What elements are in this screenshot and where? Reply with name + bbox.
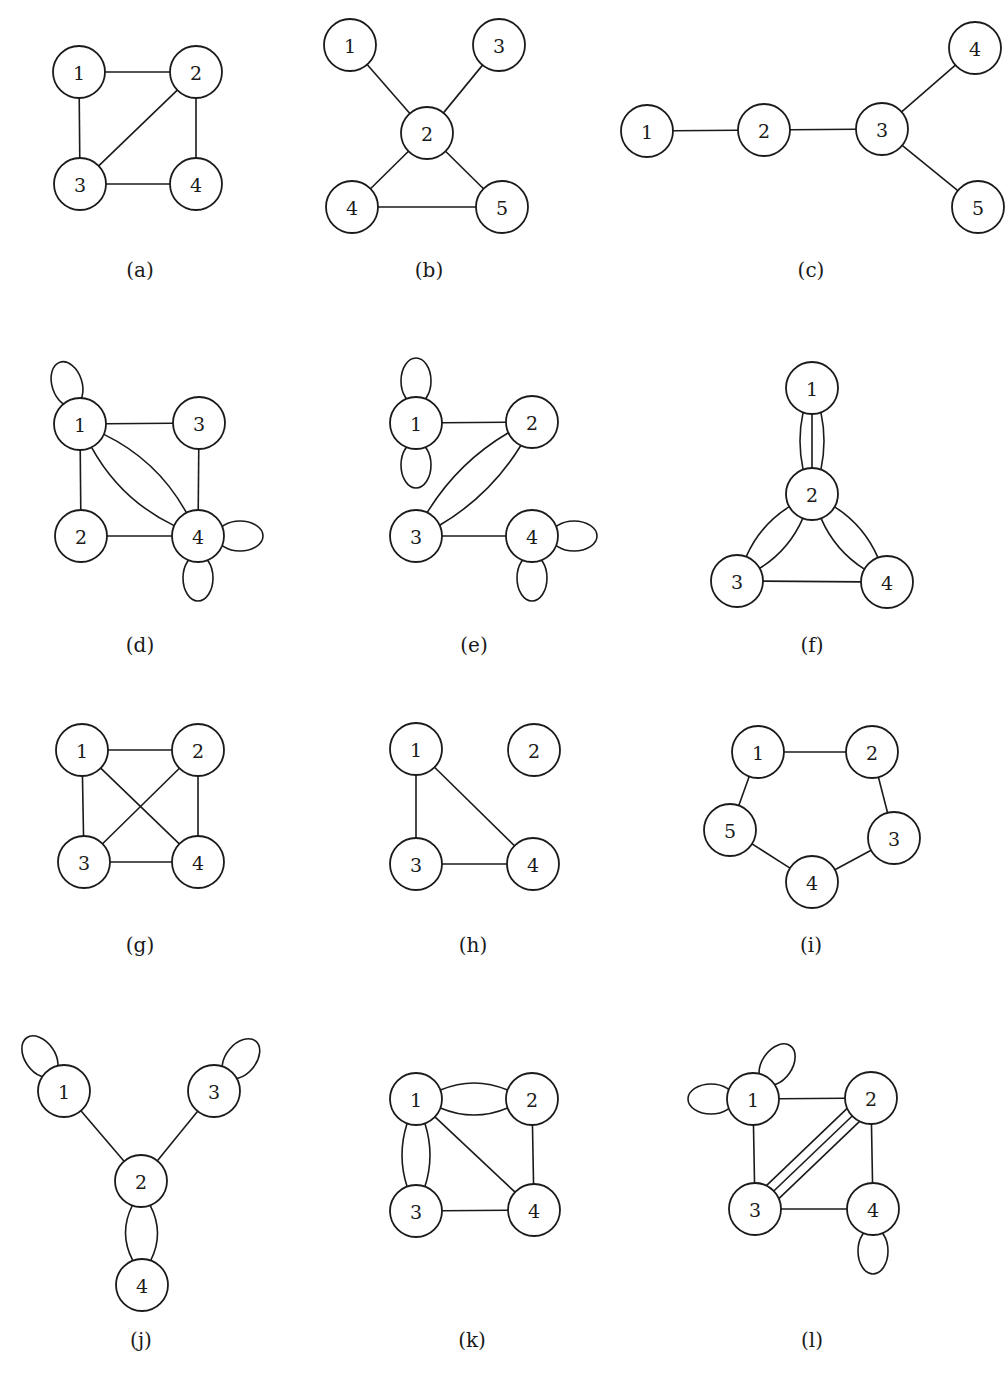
node-2: 2 xyxy=(506,1073,558,1125)
node-4: 4 xyxy=(949,22,1001,74)
node-3: 3 xyxy=(58,836,110,888)
graph-figure: 1234(a)12345(b)12345(c)1324(d)1234(e)123… xyxy=(0,0,1006,1388)
panel-caption: (f) xyxy=(800,633,823,657)
edge-1-3 xyxy=(753,1125,754,1183)
node-2: 2 xyxy=(738,104,790,156)
edge-1-2 xyxy=(80,450,81,510)
node-label: 4 xyxy=(881,572,893,594)
node-label: 1 xyxy=(74,414,86,436)
edge-1-2 xyxy=(442,422,506,423)
node-label: 3 xyxy=(410,854,422,876)
node-label: 3 xyxy=(74,174,86,196)
panel-caption: (b) xyxy=(415,258,443,282)
edge-1-3 xyxy=(82,776,83,836)
node-2: 2 xyxy=(845,1072,897,1124)
node-1: 1 xyxy=(38,1065,90,1117)
node-4: 4 xyxy=(508,1184,560,1236)
edge-1-3 xyxy=(79,98,80,158)
edge-3-4 xyxy=(442,1210,508,1211)
node-label: 3 xyxy=(208,1081,220,1103)
node-label: 2 xyxy=(758,120,770,142)
node-label: 3 xyxy=(749,1199,761,1221)
node-label: 3 xyxy=(731,571,743,593)
node-1: 1 xyxy=(732,726,784,778)
edge-2-3 xyxy=(790,129,856,130)
node-4: 4 xyxy=(170,158,222,210)
node-4: 4 xyxy=(507,838,559,890)
node-3: 3 xyxy=(729,1183,781,1235)
node-label: 3 xyxy=(888,828,900,850)
node-label: 1 xyxy=(410,739,422,761)
node-4: 4 xyxy=(506,510,558,562)
node-label: 1 xyxy=(73,62,85,84)
node-label: 4 xyxy=(526,526,538,548)
node-label: 5 xyxy=(724,820,736,842)
node-1: 1 xyxy=(786,362,838,414)
node-label: 2 xyxy=(135,1171,147,1193)
panel-caption: (a) xyxy=(126,258,154,282)
node-2: 2 xyxy=(170,46,222,98)
node-label: 4 xyxy=(969,38,981,60)
node-2: 2 xyxy=(115,1155,167,1207)
edge-1-2 xyxy=(673,130,738,131)
node-4: 4 xyxy=(172,510,224,562)
node-label: 3 xyxy=(876,119,888,141)
node-label: 4 xyxy=(190,174,202,196)
node-1: 1 xyxy=(56,724,108,776)
node-3: 3 xyxy=(188,1065,240,1117)
node-1: 1 xyxy=(621,105,673,157)
node-label: 5 xyxy=(496,197,508,219)
node-4: 4 xyxy=(786,856,838,908)
node-2: 2 xyxy=(508,724,560,776)
node-label: 2 xyxy=(526,1089,538,1111)
edge-3-4 xyxy=(763,581,861,582)
node-label: 2 xyxy=(526,412,538,434)
node-label: 1 xyxy=(752,742,764,764)
node-label: 2 xyxy=(865,1088,877,1110)
node-5: 5 xyxy=(952,181,1004,233)
node-label: 1 xyxy=(410,1089,422,1111)
node-label: 1 xyxy=(76,740,88,762)
node-label: 4 xyxy=(806,872,818,894)
node-3: 3 xyxy=(473,19,525,71)
node-1: 1 xyxy=(390,723,442,775)
node-2: 2 xyxy=(506,396,558,448)
node-label: 4 xyxy=(867,1199,879,1221)
node-label: 2 xyxy=(190,62,202,84)
edge-2-4 xyxy=(871,1124,872,1183)
node-1: 1 xyxy=(390,397,442,449)
node-1: 1 xyxy=(53,46,105,98)
node-label: 4 xyxy=(136,1275,148,1297)
node-2: 2 xyxy=(172,724,224,776)
node-1: 1 xyxy=(727,1073,779,1125)
node-3: 3 xyxy=(390,1185,442,1237)
panel-caption: (e) xyxy=(460,633,487,657)
node-label: 1 xyxy=(806,378,818,400)
node-label: 1 xyxy=(410,413,422,435)
node-label: 4 xyxy=(528,1200,540,1222)
panel-caption: (l) xyxy=(801,1328,823,1352)
node-5: 5 xyxy=(704,804,756,856)
node-label: 4 xyxy=(527,854,539,876)
node-5: 5 xyxy=(476,181,528,233)
node-label: 3 xyxy=(193,413,205,435)
node-1: 1 xyxy=(390,1073,442,1125)
node-3: 3 xyxy=(711,555,763,607)
node-label: 2 xyxy=(528,740,540,762)
edge-2-4 xyxy=(532,1125,533,1184)
node-3: 3 xyxy=(54,158,106,210)
node-label: 1 xyxy=(58,1081,70,1103)
node-label: 1 xyxy=(747,1089,759,1111)
node-2: 2 xyxy=(55,510,107,562)
node-label: 4 xyxy=(192,526,204,548)
node-3: 3 xyxy=(390,510,442,562)
node-2: 2 xyxy=(846,726,898,778)
node-label: 1 xyxy=(344,35,356,57)
node-label: 4 xyxy=(346,197,358,219)
panel-caption: (c) xyxy=(798,258,825,282)
node-label: 2 xyxy=(866,742,878,764)
node-label: 3 xyxy=(410,1201,422,1223)
node-label: 3 xyxy=(78,852,90,874)
node-label: 2 xyxy=(421,123,433,145)
panel-caption: (i) xyxy=(800,933,822,957)
